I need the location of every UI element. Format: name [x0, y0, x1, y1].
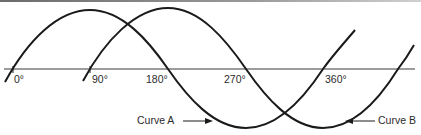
- label-0-deg: 0°: [14, 73, 24, 85]
- curve-b-label: Curve B: [378, 114, 416, 126]
- label-360-deg: 360°: [325, 73, 347, 85]
- label-180-deg: 180°: [146, 73, 168, 85]
- curve-a-arrow-icon: [205, 118, 213, 124]
- label-270-deg: 270°: [224, 73, 246, 85]
- sine-wave-diagram: 0° 90° 180° 270° 360° Curve A Curve B: [0, 0, 421, 135]
- curve-b: [83, 8, 414, 128]
- label-90-deg: 90°: [92, 73, 108, 85]
- curve-a-label: Curve A: [137, 114, 174, 126]
